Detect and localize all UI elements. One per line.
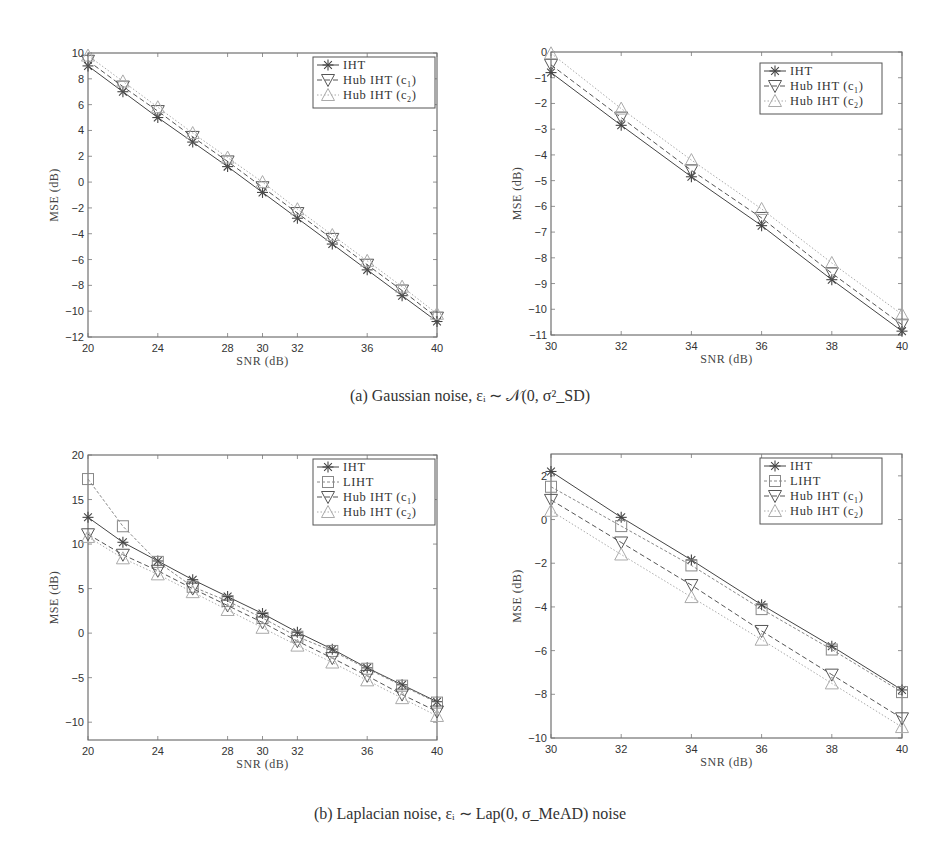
- chart-gaussian-snr-20-40: 202428303236401086420−2−4−6−8−10−12SNR (…: [0, 0, 470, 378]
- legend-entry-label: Hub IHT (c1): [790, 489, 863, 505]
- y-axis-label: MSE (dB): [47, 168, 61, 222]
- y-tick-label: −11: [529, 329, 547, 341]
- legend-entry-label: IHT: [790, 64, 813, 78]
- y-tick-label: −1: [534, 72, 547, 84]
- y-tick-label: 0: [78, 176, 84, 188]
- y-tick-label: 8: [78, 73, 84, 85]
- y-tick-label: −7: [534, 226, 547, 238]
- y-axis-label: MSE (dB): [510, 167, 524, 221]
- x-tick-label: 32: [615, 340, 627, 352]
- y-tick-label: −5: [534, 175, 547, 187]
- x-tick-label: 36: [755, 340, 767, 352]
- legend-entry-label: IHT: [343, 460, 366, 474]
- y-tick-label: −10: [528, 303, 547, 315]
- caption-b: (b) Laplacian noise, εᵢ ∼ Lap(0, σ_MeAD)…: [0, 804, 940, 823]
- legend: IHTLIHTHub IHT (c1)Hub IHT (c2): [313, 459, 435, 525]
- chart-laplacian-snr-20-40: 2024283032364020151050−5−10SNR (dB)MSE (…: [0, 430, 470, 802]
- y-tick-label: 0: [541, 514, 547, 526]
- y-tick-label: −8: [534, 688, 547, 700]
- legend-entry-label: LIHT: [790, 474, 821, 488]
- legend-entry-label: IHT: [790, 459, 813, 473]
- x-tick-label: 30: [545, 340, 557, 352]
- x-tick-label: 24: [152, 745, 164, 757]
- y-tick-label: 2: [78, 150, 84, 162]
- x-tick-label: 30: [256, 342, 268, 354]
- x-tick-label: 28: [221, 745, 233, 757]
- x-tick-label: 30: [545, 743, 557, 755]
- y-tick-label: −6: [71, 254, 84, 266]
- chart-a-right: 3032343638400−1−2−3−4−5−6−7−8−9−10−11SNR…: [470, 0, 940, 378]
- y-tick-label: 0: [78, 627, 84, 639]
- x-tick-label: 20: [82, 745, 94, 757]
- chart-a-left: 202428303236401086420−2−4−6−8−10−12SNR (…: [0, 0, 470, 378]
- y-tick-label: −6: [534, 200, 547, 212]
- chart-laplacian-snr-30-40: 30323436384020−2−4−6−8−10SNR (dB)MSE (dB…: [470, 430, 940, 802]
- y-tick-label: −2: [534, 557, 547, 569]
- y-tick-label: 15: [72, 494, 84, 506]
- x-axis-label: SNR (dB): [700, 352, 752, 366]
- x-tick-label: 34: [685, 743, 697, 755]
- y-tick-label: −8: [71, 279, 84, 291]
- legend-entry-label: LIHT: [343, 475, 374, 489]
- caption-b-text: (b) Laplacian noise, εᵢ ∼ Lap(0, σ_MeAD)…: [314, 805, 626, 822]
- y-tick-label: −10: [65, 716, 84, 728]
- y-tick-label: −10: [528, 732, 547, 744]
- y-tick-label: 10: [72, 538, 84, 550]
- chart-b-right: 30323436384020−2−4−6−8−10SNR (dB)MSE (dB…: [470, 430, 940, 802]
- x-tick-label: 32: [615, 743, 627, 755]
- y-tick-label: −10: [65, 305, 84, 317]
- x-tick-label: 36: [755, 743, 767, 755]
- y-tick-label: −6: [534, 645, 547, 657]
- chart-gaussian-snr-30-40: 3032343638400−1−2−3−4−5−6−7−8−9−10−11SNR…: [470, 0, 940, 378]
- x-tick-label: 36: [361, 745, 373, 757]
- x-tick-label: 38: [826, 743, 838, 755]
- y-tick-label: −4: [71, 228, 84, 240]
- y-tick-label: −5: [71, 672, 84, 684]
- legend-entry-label: IHT: [343, 58, 366, 72]
- legend: IHTHub IHT (c1)Hub IHT (c2): [313, 57, 435, 108]
- y-tick-label: −4: [534, 601, 547, 613]
- x-axis-label: SNR (dB): [236, 757, 288, 771]
- x-tick-label: 40: [896, 743, 908, 755]
- legend-entry-label: Hub IHT (c1): [790, 79, 863, 95]
- y-tick-label: −9: [534, 278, 547, 290]
- y-tick-label: 4: [78, 124, 84, 136]
- y-tick-label: −12: [65, 331, 84, 343]
- legend-entry-label: Hub IHT (c1): [343, 490, 416, 506]
- x-tick-label: 20: [82, 342, 94, 354]
- legend-entry-label: Hub IHT (c2): [343, 88, 416, 104]
- x-tick-label: 24: [152, 342, 164, 354]
- x-tick-label: 28: [221, 342, 233, 354]
- x-tick-label: 40: [431, 342, 443, 354]
- y-tick-label: −4: [534, 149, 547, 161]
- x-axis-label: SNR (dB): [700, 755, 752, 769]
- y-tick-label: −2: [71, 202, 84, 214]
- y-tick-label: −8: [534, 252, 547, 264]
- legend: IHTLIHTHub IHT (c1)Hub IHT (c2): [760, 458, 882, 524]
- x-tick-label: 36: [361, 342, 373, 354]
- y-tick-label: 6: [78, 99, 84, 111]
- legend-entry-label: Hub IHT (c2): [343, 505, 416, 521]
- x-tick-label: 38: [826, 340, 838, 352]
- x-tick-label: 34: [685, 340, 697, 352]
- x-tick-label: 32: [291, 745, 303, 757]
- x-tick-label: 40: [896, 340, 908, 352]
- legend-entry-label: Hub IHT (c2): [790, 94, 863, 110]
- x-tick-label: 40: [431, 745, 443, 757]
- y-tick-label: −3: [534, 123, 547, 135]
- x-tick-label: 32: [291, 342, 303, 354]
- caption-a: (a) Gaussian noise, εᵢ ∼ 𝒩(0, σ²_SD): [0, 386, 940, 405]
- chart-b-left: 2024283032364020151050−5−10SNR (dB)MSE (…: [0, 430, 470, 802]
- legend-entry-label: Hub IHT (c1): [343, 73, 416, 89]
- y-tick-label: −2: [534, 97, 547, 109]
- y-tick-label: 5: [78, 583, 84, 595]
- y-axis-label: MSE (dB): [47, 571, 61, 625]
- y-tick-label: 20: [72, 449, 84, 461]
- x-axis-label: SNR (dB): [236, 354, 288, 368]
- y-axis-label: MSE (dB): [510, 569, 524, 623]
- x-tick-label: 30: [256, 745, 268, 757]
- caption-a-text: (a) Gaussian noise, εᵢ ∼ 𝒩(0, σ²_SD): [350, 387, 590, 404]
- legend-entry-label: Hub IHT (c2): [790, 504, 863, 520]
- legend: IHTHub IHT (c1)Hub IHT (c2): [760, 63, 882, 114]
